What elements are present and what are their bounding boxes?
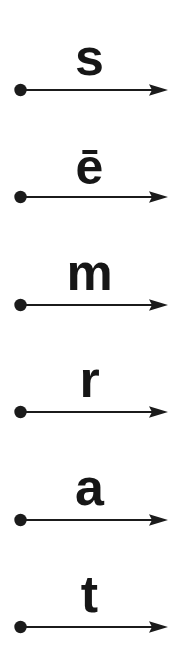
phoneme-row[interactable]: m (0, 215, 181, 323)
sound-arrow (0, 390, 181, 430)
phoneme-row[interactable]: a (0, 430, 181, 538)
sound-arrow (0, 605, 181, 645)
phoneme-arrow-card: s ē m r a (0, 0, 181, 646)
start-dot (14, 83, 26, 95)
start-dot (14, 406, 26, 418)
sound-arrow (0, 68, 181, 108)
phoneme-row[interactable]: r (0, 323, 181, 431)
sound-arrow (0, 283, 181, 323)
start-dot (14, 513, 26, 525)
sound-arrow (0, 498, 181, 538)
phoneme-row[interactable]: ē (0, 108, 181, 216)
sound-arrow (0, 175, 181, 215)
start-dot (14, 621, 26, 633)
phoneme-row[interactable]: t (0, 538, 181, 646)
start-dot (14, 298, 26, 310)
start-dot (14, 191, 26, 203)
phoneme-row[interactable]: s (0, 0, 181, 108)
